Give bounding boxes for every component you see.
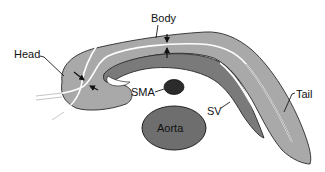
leader-sma [155, 89, 164, 92]
label-body: Body [151, 12, 177, 24]
leader-head [40, 56, 64, 76]
label-sma: SMA [131, 86, 156, 98]
bile-duct-extension-outline [52, 112, 64, 120]
leader-sv [221, 102, 230, 108]
label-aorta: Aorta [157, 122, 184, 134]
pancreas-diagram: Head Body SMA SV Tail Aorta [0, 0, 325, 172]
sma-vessel [164, 80, 184, 95]
leader-body [156, 25, 158, 38]
label-sv: SV [207, 105, 222, 117]
label-tail: Tail [296, 88, 313, 100]
label-head: Head [14, 48, 40, 60]
